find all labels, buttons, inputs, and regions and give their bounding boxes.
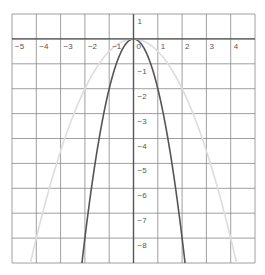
tick-labels: −5−4−3−2−1012341−1−2−3−4−5−6−7−8 — [15, 17, 239, 250]
x-tick-label: −2 — [88, 42, 98, 51]
x-tick-label: 0 — [137, 42, 142, 51]
x-tick-label: −3 — [64, 42, 74, 51]
y-tick-label: −6 — [138, 191, 148, 200]
y-tick-label: −8 — [138, 241, 148, 250]
x-tick-label: 3 — [209, 42, 214, 51]
y-tick-label: −2 — [138, 92, 148, 101]
y-tick-label: −5 — [138, 166, 148, 175]
y-tick-label: 1 — [138, 17, 143, 26]
y-tick-label: −7 — [138, 216, 148, 225]
parabola-chart: −5−4−3−2−1012341−1−2−3−4−5−6−7−8 — [0, 0, 265, 275]
y-tick-label: −1 — [138, 67, 148, 76]
x-tick-label: 1 — [161, 42, 166, 51]
x-tick-label: 2 — [185, 42, 190, 51]
y-tick-label: −4 — [138, 142, 148, 151]
x-tick-label: 4 — [234, 42, 239, 51]
x-tick-label: −5 — [15, 42, 25, 51]
x-tick-label: −4 — [39, 42, 49, 51]
x-tick-label: −1 — [112, 42, 122, 51]
y-tick-label: −3 — [138, 117, 148, 126]
